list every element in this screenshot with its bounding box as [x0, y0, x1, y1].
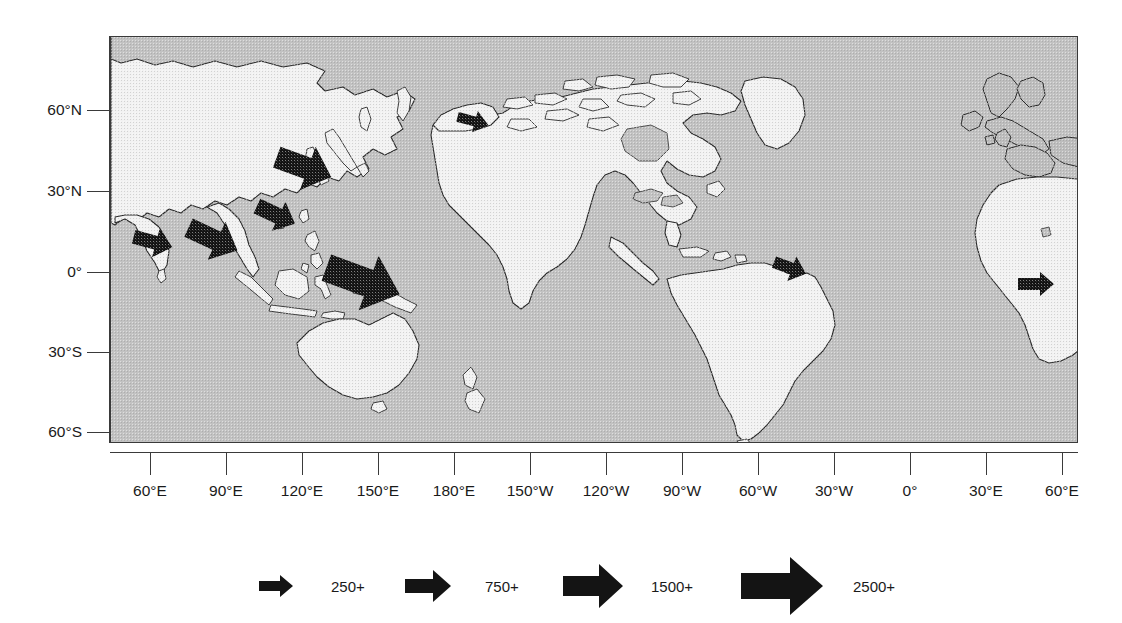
legend-arrow-750-icon: [405, 570, 451, 602]
legend-label-250: 250+: [331, 578, 365, 595]
y-tick-mark: [87, 272, 109, 273]
y-tick-label-0: 0°: [0, 263, 82, 281]
legend-arrow-1500-icon: [563, 564, 623, 608]
y-tick-label-30n: 30°N: [0, 182, 82, 200]
flow-arrow-western-pacific: [316, 240, 409, 321]
x-axis-line: [110, 452, 1078, 453]
legend-label-750: 750+: [485, 578, 519, 595]
y-axis-line: [109, 36, 110, 443]
x-tick-mark: [150, 453, 151, 475]
legend-item-750: 750+: [395, 558, 555, 614]
flow-map-figure: .land { fill:#f2f2f2; stroke:#2a2a2a; st…: [0, 0, 1122, 623]
landmass-africa-europe: [961, 73, 1078, 363]
landmass-south-america: [667, 263, 835, 443]
legend-label-2500: 2500+: [853, 578, 895, 595]
y-tick-mark: [87, 352, 109, 353]
y-tick-label-30s: 30°S: [0, 343, 82, 361]
x-tick-mark: [834, 453, 835, 475]
x-tick-mark: [606, 453, 607, 475]
legend-arrow-250-icon: [259, 575, 293, 597]
legend-label-1500: 1500+: [651, 578, 693, 595]
flow-arrow-southeast-china: [250, 192, 302, 239]
legend: 250+ 750+ 1500+ 2500+: [245, 558, 885, 614]
legend-item-2500: 2500+: [735, 558, 925, 614]
y-tick-label-60n: 60°N: [0, 101, 82, 119]
x-tick-label-60e-right: 60°E: [1017, 482, 1107, 500]
y-tick-mark: [87, 191, 109, 192]
y-tick-mark: [87, 110, 109, 111]
x-tick-mark: [986, 453, 987, 475]
map-plot-area: .land { fill:#f2f2f2; stroke:#2a2a2a; st…: [110, 36, 1078, 443]
y-tick-mark: [87, 432, 109, 433]
x-tick-mark: [682, 453, 683, 475]
x-tick-mark: [1062, 453, 1063, 475]
x-tick-mark: [454, 453, 455, 475]
x-tick-mark: [530, 453, 531, 475]
x-tick-mark: [758, 453, 759, 475]
landmass-australia: [297, 313, 485, 413]
legend-arrow-2500-icon: [741, 557, 823, 615]
x-tick-mark: [302, 453, 303, 475]
legend-item-1500: 1500+: [555, 558, 735, 614]
x-tick-mark: [378, 453, 379, 475]
x-tick-mark: [226, 453, 227, 475]
x-tick-mark: [910, 453, 911, 475]
world-map-svg: .land { fill:#f2f2f2; stroke:#2a2a2a; st…: [111, 37, 1078, 443]
legend-item-250: 250+: [245, 558, 395, 614]
y-tick-label-60s: 60°S: [0, 423, 82, 441]
